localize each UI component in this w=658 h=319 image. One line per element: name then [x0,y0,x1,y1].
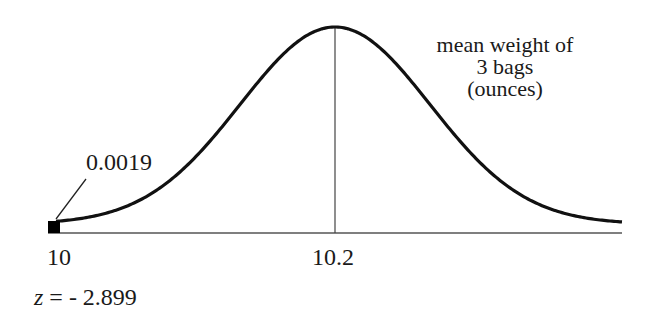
axis-variable-label: mean weight of 3 bags (ounces) [405,34,605,100]
tail-pointer [56,179,86,219]
tick-label-10: 10 [47,245,71,269]
shaded-tail-region [48,221,60,233]
axis-label-line-3: (ounces) [405,78,605,100]
z-symbol: z [34,284,43,310]
z-score-label: z = - 2.899 [34,285,137,309]
tail-probability-label: 0.0019 [86,150,152,174]
tick-label-10-2: 10.2 [312,245,354,269]
axis-label-line-1: mean weight of [405,34,605,56]
axis-label-line-2: 3 bags [405,56,605,78]
z-value: = - 2.899 [43,284,137,310]
